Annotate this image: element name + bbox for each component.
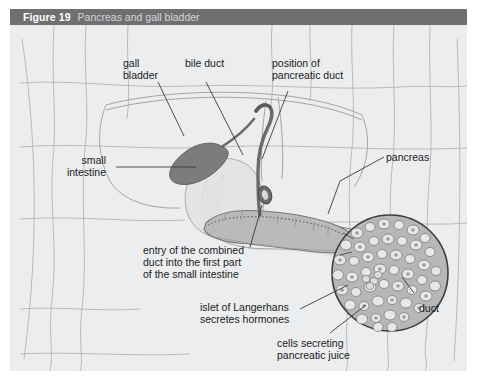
- label-cells-secreting-pancreatic-juice: cells secreting pancreatic juice: [277, 337, 350, 361]
- label-duct: duct: [419, 302, 439, 314]
- cystic-duct: [223, 119, 254, 146]
- label-small-intestine: small intestine: [34, 154, 106, 178]
- label-gall-bladder: gall bladder: [123, 57, 158, 81]
- figure-root: Figure 19 Pancreas and gall bladder: [0, 0, 481, 381]
- label-entry-of-combined-duct: entry of the combined duct into the firs…: [143, 244, 244, 281]
- label-bile-duct: bile duct: [185, 57, 224, 69]
- label-position-of-pancreatic-duct: position of pancreatic duct: [272, 57, 343, 81]
- label-pancreas: pancreas: [386, 151, 429, 163]
- figure-panel: Figure 19 Pancreas and gall bladder: [10, 9, 467, 371]
- label-islet-of-langerhans: islet of Langerhans secretes hormones: [200, 301, 289, 325]
